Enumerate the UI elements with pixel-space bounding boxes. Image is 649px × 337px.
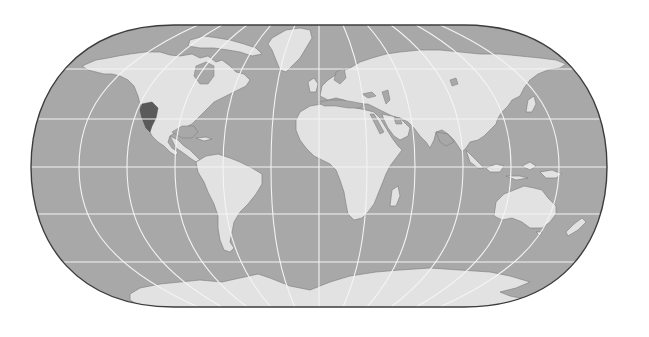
map-canvas [0, 0, 649, 337]
world-map: World map (Eckert IV-style pseudocylindr… [0, 0, 649, 337]
